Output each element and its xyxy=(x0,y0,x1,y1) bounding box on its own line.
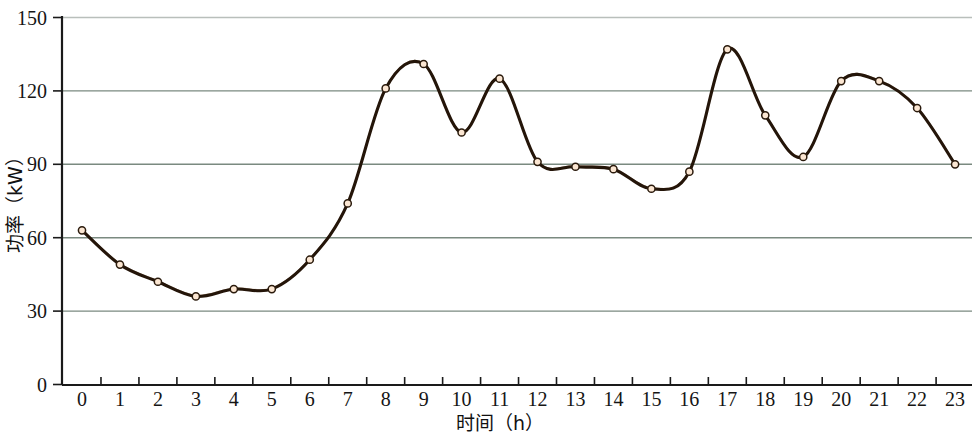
x-tick-label-19: 19 xyxy=(793,388,813,410)
x-tick-label-17: 17 xyxy=(717,388,737,410)
x-tick-label-23: 23 xyxy=(945,388,965,410)
data-point-hour-15 xyxy=(648,185,655,192)
x-tick-label-0: 0 xyxy=(77,388,87,410)
chart-container: 0306090120150 01234567891011121314151617… xyxy=(0,0,978,437)
data-point-hour-16 xyxy=(686,168,693,175)
y-tick-label-0: 0 xyxy=(37,374,47,396)
x-tick-label-22: 22 xyxy=(907,388,927,410)
data-point-hour-14 xyxy=(610,166,617,173)
x-tick-label-10: 10 xyxy=(452,388,472,410)
x-tick-label-16: 16 xyxy=(679,388,699,410)
data-point-hour-6 xyxy=(306,256,313,263)
y-tick-label-60: 60 xyxy=(27,227,47,249)
y-tick-label-120: 120 xyxy=(17,80,47,102)
data-point-hour-17 xyxy=(724,46,731,53)
power-load-line-chart: 0306090120150 01234567891011121314151617… xyxy=(0,0,978,437)
x-tick-label-14: 14 xyxy=(603,388,623,410)
y-tick-label-90: 90 xyxy=(27,153,47,175)
data-point-hour-12 xyxy=(534,158,541,165)
x-tick-label-12: 12 xyxy=(528,388,548,410)
x-tick-label-13: 13 xyxy=(565,388,585,410)
data-point-hour-11 xyxy=(496,75,503,82)
x-tick-label-1: 1 xyxy=(115,388,125,410)
x-tick-label-8: 8 xyxy=(381,388,391,410)
data-point-hour-0 xyxy=(78,227,85,234)
y-axis-title: 功率（kW） xyxy=(4,147,26,253)
x-tick-label-7: 7 xyxy=(343,388,353,410)
data-point-hour-4 xyxy=(230,285,237,292)
x-axis-title: 时间（h） xyxy=(456,412,544,434)
x-tick-label-15: 15 xyxy=(641,388,661,410)
x-tick-label-9: 9 xyxy=(419,388,429,410)
data-point-hour-5 xyxy=(268,285,275,292)
data-point-hour-3 xyxy=(192,293,199,300)
x-tick-label-11: 11 xyxy=(490,388,509,410)
x-tick-label-18: 18 xyxy=(755,388,775,410)
y-tick-label-30: 30 xyxy=(27,300,47,322)
data-point-hour-20 xyxy=(838,78,845,85)
x-tick-label-5: 5 xyxy=(267,388,277,410)
data-point-hour-13 xyxy=(572,163,579,170)
data-point-hour-23 xyxy=(951,161,958,168)
data-point-hour-19 xyxy=(800,153,807,160)
x-tick-label-21: 21 xyxy=(869,388,889,410)
y-tick-label-150: 150 xyxy=(17,7,47,29)
data-point-hour-1 xyxy=(116,261,123,268)
x-tick-label-4: 4 xyxy=(229,388,239,410)
data-point-hour-2 xyxy=(154,278,161,285)
x-tick-label-20: 20 xyxy=(831,388,851,410)
data-point-hour-7 xyxy=(344,200,351,207)
data-point-hour-21 xyxy=(876,78,883,85)
data-point-hour-22 xyxy=(914,104,921,111)
data-point-hour-8 xyxy=(382,85,389,92)
chart-background xyxy=(0,0,978,437)
x-tick-label-6: 6 xyxy=(305,388,315,410)
x-tick-label-3: 3 xyxy=(191,388,201,410)
x-tick-label-2: 2 xyxy=(153,388,163,410)
data-point-hour-10 xyxy=(458,129,465,136)
data-point-hour-9 xyxy=(420,60,427,67)
data-point-hour-18 xyxy=(762,112,769,119)
